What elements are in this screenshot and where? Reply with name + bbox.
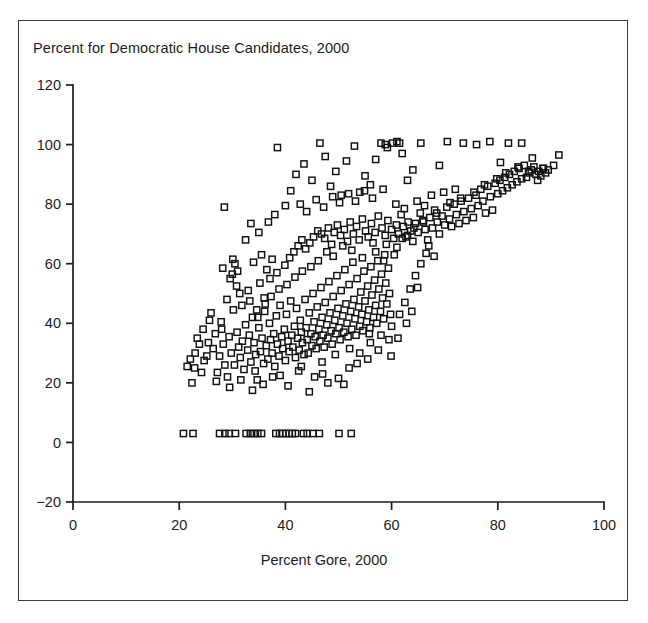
data-point <box>470 214 476 220</box>
data-point <box>315 258 321 264</box>
data-point <box>332 351 338 357</box>
data-point <box>338 192 344 198</box>
data-point <box>410 167 416 173</box>
data-point <box>248 220 254 226</box>
data-point <box>282 357 288 363</box>
y-tick-label-40: 40 <box>45 315 61 331</box>
data-point <box>326 278 332 284</box>
data-point <box>357 350 363 356</box>
data-point <box>352 198 358 204</box>
data-point <box>330 194 336 200</box>
data-point <box>428 192 434 198</box>
data-point <box>386 337 392 343</box>
data-point <box>249 387 255 393</box>
data-point <box>316 430 322 436</box>
data-point <box>453 211 459 217</box>
data-point <box>218 319 224 325</box>
data-point <box>312 374 318 380</box>
data-point <box>241 366 247 372</box>
data-point <box>276 286 282 292</box>
data-point <box>347 219 353 225</box>
x-tick-label-0: 0 <box>69 517 77 533</box>
data-point <box>335 305 341 311</box>
data-point <box>258 252 264 258</box>
data-point <box>282 262 288 268</box>
data-point <box>372 229 378 235</box>
data-point <box>304 208 310 214</box>
data-point <box>254 307 260 313</box>
data-point <box>297 201 303 207</box>
data-point <box>250 259 256 265</box>
data-point <box>353 223 359 229</box>
data-point <box>348 430 354 436</box>
data-point <box>227 276 233 282</box>
data-point <box>192 365 198 371</box>
data-point <box>206 317 212 323</box>
data-point <box>237 354 243 360</box>
data-point <box>327 183 333 189</box>
data-point <box>232 261 238 267</box>
data-point <box>345 334 351 340</box>
data-point <box>418 261 424 267</box>
data-point <box>230 256 236 262</box>
data-point <box>309 177 315 183</box>
data-point <box>230 307 236 313</box>
data-point <box>468 206 474 212</box>
data-point <box>268 293 274 299</box>
data-point <box>220 341 226 347</box>
data-point <box>347 346 353 352</box>
data-point <box>388 353 394 359</box>
data-point <box>422 226 428 232</box>
data-point <box>299 268 305 274</box>
data-point <box>222 362 228 368</box>
data-point <box>441 189 447 195</box>
data-point <box>220 265 226 271</box>
data-point <box>460 140 466 146</box>
data-point <box>214 369 220 375</box>
data-point <box>473 141 479 147</box>
data-point <box>354 360 360 366</box>
data-point <box>352 316 358 322</box>
data-point <box>556 152 562 158</box>
data-point <box>391 252 397 258</box>
data-point <box>190 430 196 436</box>
data-point <box>444 138 450 144</box>
data-point <box>285 383 291 389</box>
data-point <box>389 323 395 329</box>
data-point <box>385 217 391 223</box>
data-point <box>184 363 190 369</box>
data-point <box>180 430 186 436</box>
data-point <box>519 140 525 146</box>
data-point <box>302 296 308 302</box>
data-point <box>264 267 270 273</box>
data-point <box>385 265 391 271</box>
data-point <box>423 250 429 256</box>
data-point <box>421 203 427 209</box>
data-point <box>340 313 346 319</box>
data-point <box>394 244 400 250</box>
data-point <box>393 201 399 207</box>
data-point <box>306 389 312 395</box>
data-point <box>487 138 493 144</box>
plot-canvas: −20020406080100120020406080100 <box>0 0 648 623</box>
data-point <box>387 311 393 317</box>
data-point <box>281 326 287 332</box>
data-point <box>383 280 389 286</box>
data-point <box>282 203 288 209</box>
data-point <box>266 320 272 326</box>
data-point <box>277 302 283 308</box>
data-point <box>376 286 382 292</box>
x-axis-label: Percent Gore, 2000 <box>0 552 648 568</box>
data-point <box>228 350 234 356</box>
data-point <box>319 371 325 377</box>
data-point <box>373 156 379 162</box>
data-point <box>319 314 325 320</box>
data-point <box>427 214 433 220</box>
data-point <box>461 208 467 214</box>
x-tick-label-40: 40 <box>277 517 293 533</box>
data-point <box>345 191 351 197</box>
data-point <box>529 155 535 161</box>
data-point <box>208 310 214 316</box>
data-point <box>270 374 276 380</box>
data-point <box>234 329 240 335</box>
